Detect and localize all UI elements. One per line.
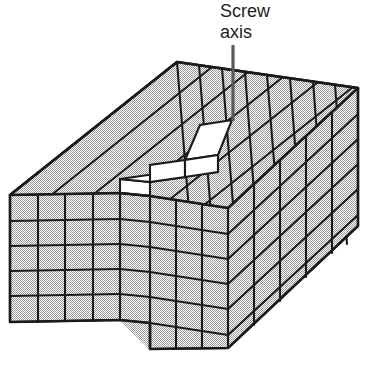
block-illustration <box>0 0 369 381</box>
screw-step-ramp-lower <box>185 155 218 177</box>
screw-dislocation-figure: Screw axis <box>0 0 369 381</box>
outside-right-white <box>358 89 369 381</box>
screw-step-riser-far <box>150 160 185 182</box>
screw-axis-label-line2: axis <box>220 22 252 42</box>
block-geometry <box>0 62 369 381</box>
screw-axis-label-line1: Screw <box>220 1 270 21</box>
